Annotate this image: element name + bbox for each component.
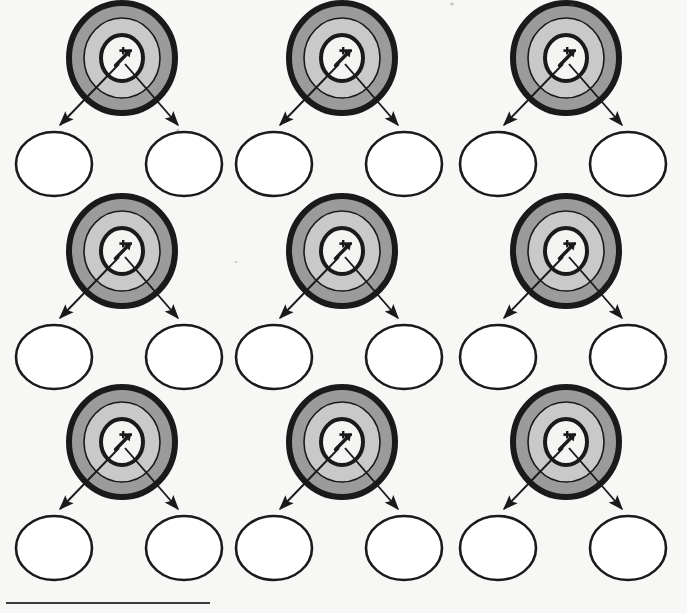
diagram-svg bbox=[0, 0, 687, 613]
scan-speck-2 bbox=[569, 3, 574, 7]
diagram-canvas bbox=[0, 0, 687, 613]
diagram-units-layer bbox=[16, 3, 666, 580]
scan-speck-4 bbox=[235, 261, 238, 263]
scan-speck-1 bbox=[450, 3, 454, 6]
scan-speck-3 bbox=[176, 129, 179, 131]
